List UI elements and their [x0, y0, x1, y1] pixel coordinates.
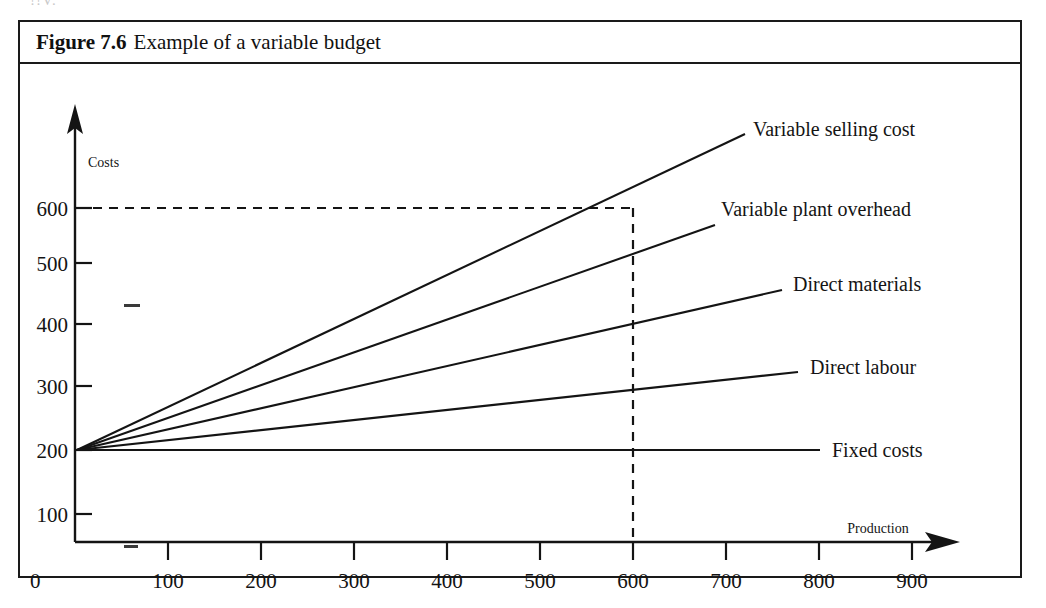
x-tick-label-300: 300 — [338, 569, 370, 593]
x-tick-label-900: 900 — [896, 569, 928, 593]
y-tick-label-100: 100 — [37, 503, 69, 527]
scan-speck-lower — [124, 545, 138, 548]
x-axis-name: Production — [847, 521, 908, 536]
x-tick-label-200: 200 — [245, 569, 277, 593]
x-tick-label-700: 700 — [710, 569, 742, 593]
figure-root: !!V. Figure 7.6 Example of a variable bu… — [0, 0, 1046, 608]
series-line-direct-materials — [77, 290, 782, 450]
scan-artifact-text: !!V. — [30, 0, 57, 9]
figure-caption: Figure 7.6 Example of a variable budget — [20, 22, 1020, 64]
x-tick-label-100: 100 — [152, 569, 184, 593]
series-label-variable-selling-cost: Variable selling cost — [753, 118, 916, 141]
scan-speck-upper — [124, 304, 140, 307]
series-line-variable-selling-cost — [77, 134, 745, 450]
y-tick-label-300: 300 — [37, 375, 69, 399]
y-tick-label-600: 600 — [37, 197, 69, 221]
plot-area: Costs Production 600 500 400 300 200 100… — [20, 64, 1020, 578]
y-tick-label-400: 400 — [37, 313, 69, 337]
x-tick-label-400: 400 — [431, 569, 463, 593]
y-axis-name: Costs — [88, 155, 119, 170]
origin-label: 0 — [30, 569, 41, 593]
series-label-fixed-costs: Fixed costs — [832, 439, 923, 461]
variable-budget-chart: Costs Production 600 500 400 300 200 100… — [20, 64, 1020, 578]
x-tick-label-800: 800 — [803, 569, 835, 593]
figure-caption-label: Figure 7.6 — [36, 30, 127, 55]
x-tick-label-500: 500 — [524, 569, 556, 593]
series-label-direct-materials: Direct materials — [793, 273, 921, 295]
series-label-direct-labour: Direct labour — [810, 356, 916, 378]
figure-caption-text: Example of a variable budget — [134, 30, 381, 55]
series-label-variable-plant-overhead: Variable plant overhead — [721, 198, 911, 221]
x-tick-label-600: 600 — [617, 569, 649, 593]
y-tick-label-500: 500 — [37, 252, 69, 276]
figure-frame: Figure 7.6 Example of a variable budget … — [18, 20, 1022, 578]
y-tick-label-200: 200 — [37, 439, 69, 463]
